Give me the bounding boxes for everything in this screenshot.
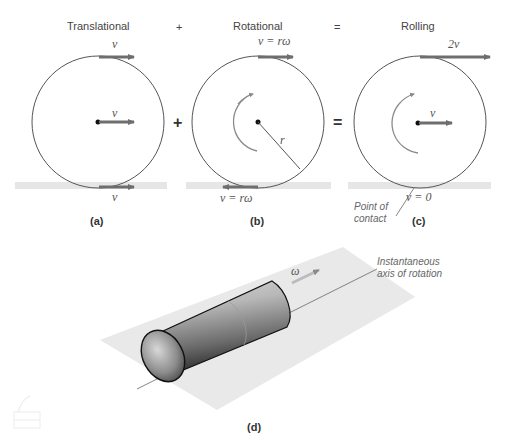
header-plus: + [176, 21, 182, 33]
headers: Translational + Rotational = Rolling [67, 20, 435, 33]
bottom-velocity-label-a: v [112, 190, 118, 204]
top-velocity-label-c: 2v [448, 37, 460, 51]
header-rolling: Rolling [401, 20, 435, 32]
panel-a-translational: v v v (a) [32, 37, 164, 227]
rotation-arrowhead-c [399, 94, 414, 104]
equals-operator: = [333, 114, 342, 131]
top-velocity-label-b: v = rω [258, 34, 291, 48]
center-velocity-label-a: v [112, 106, 118, 120]
contact-velocity-label-c: v = 0 [406, 190, 431, 204]
panel-d-cylinder: ω Instantaneous axis of rotation (d) [100, 247, 442, 433]
header-rotational: Rotational [233, 20, 283, 32]
panel-label-c: (c) [412, 215, 426, 227]
panel-label-b: (b) [250, 215, 264, 227]
header-equals: = [334, 21, 340, 33]
radius-line-b [258, 122, 300, 169]
axis-note-line2: axis of rotation [377, 268, 442, 279]
rotation-arc-c [392, 104, 418, 153]
rotation-arc-b [233, 94, 257, 151]
panel-c-rolling: v 2v v = 0 Point of contact (c) [354, 37, 490, 227]
plus-operator: + [173, 114, 182, 131]
axis-note-line1: Instantaneous [377, 256, 440, 267]
panel-label-a: (a) [90, 215, 104, 227]
omega-label: ω [291, 264, 299, 278]
contact-note-line1: Point of [354, 201, 389, 212]
contact-note-line2: contact [354, 213, 387, 224]
watermark-icon [14, 396, 40, 428]
header-translational: Translational [67, 20, 130, 32]
top-velocity-label-a: v [112, 37, 118, 51]
bottom-velocity-label-b: v = rω [220, 191, 253, 205]
radius-label-b: r [280, 133, 285, 147]
center-velocity-label-c: v [430, 106, 436, 120]
panel-b-rotational: r v = rω v = rω (b) [192, 34, 324, 227]
rolling-motion-diagram: Translational + Rotational = Rolling v v… [0, 0, 509, 446]
panel-label-d: (d) [247, 421, 261, 433]
